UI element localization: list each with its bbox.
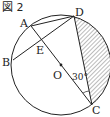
angle-arc-c	[83, 91, 89, 93]
label-d: D	[75, 7, 84, 18]
label-o: O	[53, 70, 62, 81]
label-b: B	[2, 57, 10, 68]
figure-2: 図 2 A D B E O C 30°	[0, 0, 110, 117]
center-dot	[60, 64, 63, 67]
label-a: A	[20, 18, 28, 29]
hatched-region	[74, 16, 110, 105]
label-e: E	[36, 45, 44, 56]
label-c: C	[92, 105, 100, 116]
angle-label: 30°	[72, 73, 88, 82]
geometry-diagram	[0, 0, 110, 117]
